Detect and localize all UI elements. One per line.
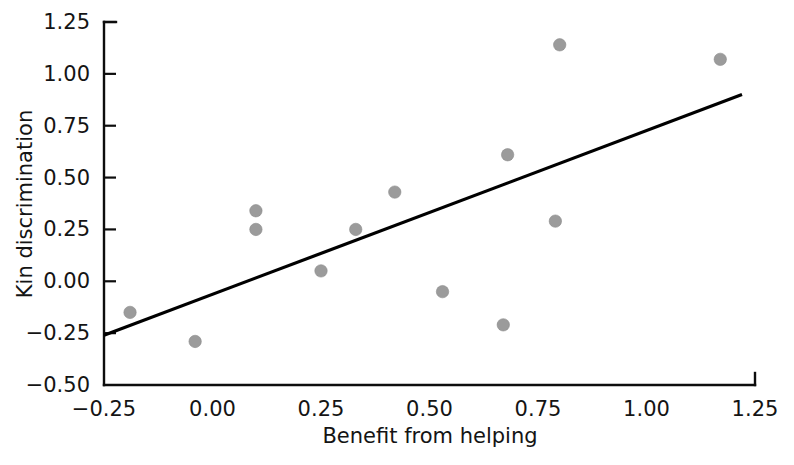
data-point <box>189 335 201 347</box>
data-point <box>497 319 509 331</box>
x-tick-label: 1.00 <box>623 397 670 421</box>
data-point <box>124 306 136 318</box>
data-points <box>124 39 727 348</box>
data-point <box>501 149 513 161</box>
scatter-plot-figure: −0.250.000.250.500.751.001.25 −0.50−0.25… <box>0 0 794 465</box>
x-tick-label: 0.75 <box>515 397 562 421</box>
y-tick-label: 1.25 <box>43 10 90 34</box>
x-tick-label: 0.25 <box>298 397 345 421</box>
data-point <box>554 39 566 51</box>
x-tick-label: 0.00 <box>189 397 236 421</box>
y-tick-label: 0.25 <box>43 217 90 241</box>
y-tick-label: −0.25 <box>26 321 90 345</box>
data-point <box>350 223 362 235</box>
data-point <box>436 285 448 297</box>
data-point <box>389 186 401 198</box>
x-tick-label: 1.25 <box>732 397 779 421</box>
axes <box>104 22 755 385</box>
x-axis-tick-labels: −0.250.000.250.500.751.001.25 <box>72 397 779 421</box>
regression-line-segment <box>104 95 742 336</box>
x-tick-label: 0.50 <box>406 397 453 421</box>
y-tick-label: 0.75 <box>43 114 90 138</box>
data-point <box>250 205 262 217</box>
data-point <box>549 215 561 227</box>
x-tick-label: −0.25 <box>72 397 136 421</box>
y-axis-title: Kin discrimination <box>13 110 37 298</box>
data-point <box>315 265 327 277</box>
x-axis-title: Benefit from helping <box>322 424 537 448</box>
y-tick-label: 0.50 <box>43 166 90 190</box>
y-tick-label: 0.00 <box>43 269 90 293</box>
plot-canvas: −0.250.000.250.500.751.001.25 −0.50−0.25… <box>0 0 794 465</box>
data-point <box>714 53 726 65</box>
regression-line <box>104 95 742 336</box>
data-point <box>250 223 262 235</box>
y-tick-label: 1.00 <box>43 62 90 86</box>
y-tick-label: −0.50 <box>26 373 90 397</box>
